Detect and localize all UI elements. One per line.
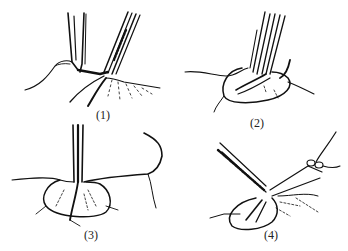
figure: (1) (2) (3) (4) [0,0,348,251]
panel-4-drawing [210,132,340,229]
line-drawing [0,0,348,251]
panel-2-label: (2) [250,116,264,131]
panel-2-drawing [185,12,314,112]
panel-4-label: (4) [264,228,278,243]
panel-3-label: (3) [84,228,98,243]
panel-1-drawing [25,12,160,106]
panel-3-drawing [12,125,162,226]
panel-1-label: (1) [96,108,110,123]
